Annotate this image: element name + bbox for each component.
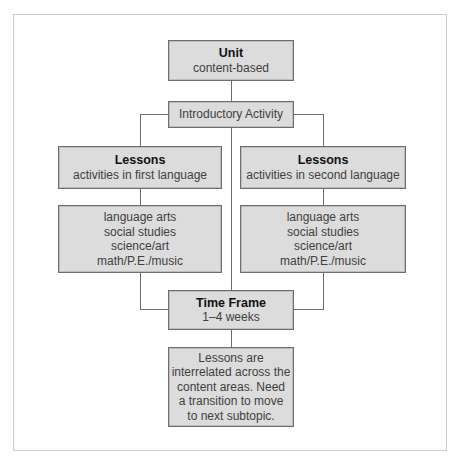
lessons-left-subtitle: activities in first language: [73, 168, 207, 183]
connector-left-subjects-down: [140, 273, 141, 310]
lessons-right-subtitle: activities in second language: [246, 168, 399, 183]
subject-line: science/art: [294, 239, 352, 254]
connector-center-trunk: [231, 128, 232, 290]
subject-line: math/P.E./music: [97, 254, 183, 269]
subject-line: language arts: [287, 210, 360, 225]
subject-line: social studies: [287, 225, 359, 240]
connector-right-to-timeframe: [294, 309, 324, 310]
subjects-left-box: language arts social studies science/art…: [58, 205, 222, 273]
unit-box: Unit content-based: [168, 40, 294, 81]
subject-line: language arts: [104, 210, 177, 225]
connector-right-branch-top: [323, 114, 324, 147]
subject-line: social studies: [104, 225, 176, 240]
subjects-right-box: language arts social studies science/art…: [240, 205, 406, 273]
connector-right-lessons-subjects: [323, 189, 324, 205]
connector-left-to-timeframe: [140, 309, 168, 310]
note-box: Lessons are interrelated across the cont…: [168, 347, 294, 427]
time-frame-subtitle: 1–4 weeks: [202, 310, 259, 325]
unit-title: Unit: [219, 46, 243, 61]
connector-left-branch-top: [140, 114, 141, 147]
connector-unit-intro: [231, 81, 232, 101]
connector-intro-right: [294, 114, 324, 115]
connector-right-subjects-down: [323, 273, 324, 310]
note-line: to next subtopic.: [187, 409, 274, 424]
note-line: interrelated across the: [172, 365, 291, 380]
introductory-activity-box: Introductory Activity: [168, 101, 294, 128]
lessons-first-language-box: Lessons activities in first language: [58, 146, 222, 189]
time-frame-box: Time Frame 1–4 weeks: [168, 290, 294, 330]
lessons-left-title: Lessons: [115, 153, 166, 168]
lessons-right-title: Lessons: [298, 153, 349, 168]
unit-subtitle: content-based: [193, 61, 269, 76]
connector-timeframe-note: [231, 330, 232, 347]
connector-intro-left: [140, 114, 168, 115]
subject-line: math/P.E./music: [280, 254, 366, 269]
time-frame-title: Time Frame: [196, 296, 266, 311]
introductory-activity-label: Introductory Activity: [179, 107, 283, 122]
note-line: content areas. Need: [177, 380, 285, 395]
lessons-second-language-box: Lessons activities in second language: [240, 146, 406, 189]
note-line: a transition to move: [179, 394, 284, 409]
subject-line: science/art: [111, 239, 169, 254]
note-line: Lessons are: [198, 351, 263, 366]
connector-left-lessons-subjects: [140, 189, 141, 205]
